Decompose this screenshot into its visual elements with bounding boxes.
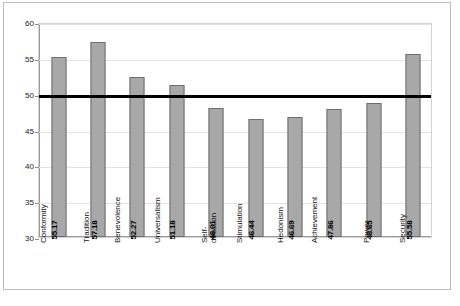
bar-slot: 57.18 xyxy=(78,24,117,237)
figure-caption xyxy=(4,299,434,306)
bar-value-label: 51.18 xyxy=(169,220,177,239)
y-tick-label-50: 50 xyxy=(25,92,34,100)
bar[interactable]: 55.58 xyxy=(406,54,421,237)
x-axis-category-label: Power xyxy=(362,220,371,243)
bar-value-label: 57.18 xyxy=(90,220,98,239)
bar[interactable]: 46.44 xyxy=(248,119,263,237)
x-axis-category-label: Universalism xyxy=(153,197,162,243)
bar-slot: 46.69 xyxy=(275,24,314,237)
y-tick-label-35: 35 xyxy=(25,199,34,207)
bar-value-label: 55.17 xyxy=(51,220,59,239)
bar[interactable]: 47.86 xyxy=(327,109,342,237)
bar-value-label: 52.27 xyxy=(129,220,137,239)
x-axis-category-label: Benevolence xyxy=(113,197,122,243)
x-axis-category-label: Stimulation xyxy=(235,203,244,243)
bar-slot: 52.27 xyxy=(118,24,157,237)
y-tick-label-30: 30 xyxy=(25,235,34,243)
y-tick-label-40: 40 xyxy=(25,163,34,171)
bar-slot: 48.01 xyxy=(197,24,236,237)
x-axis-category-label: Achievement xyxy=(310,197,319,243)
bar-slot: 47.86 xyxy=(315,24,354,237)
bar-chart: 30354045505560 55.1757.1852.2751.1848.01… xyxy=(4,3,452,291)
bar-value-label: 47.86 xyxy=(326,220,334,239)
bar[interactable]: 55.17 xyxy=(51,57,66,237)
reference-line-50 xyxy=(39,95,431,98)
bar[interactable]: 57.18 xyxy=(91,42,106,237)
bar-slot: 55.58 xyxy=(394,24,433,237)
figure-frame: 30354045505560 55.1757.1852.2751.1848.01… xyxy=(3,2,451,290)
x-axis-category-label: Self- direction xyxy=(200,213,218,243)
y-tick-label-55: 55 xyxy=(25,56,34,64)
x-axis-category-label: Security xyxy=(398,214,407,243)
bar[interactable]: 46.69 xyxy=(288,117,303,237)
bar-slot: 48.65 xyxy=(354,24,393,237)
x-axis-labels: ConformityTraditionBenevolenceUniversali… xyxy=(38,241,432,291)
bar[interactable]: 52.27 xyxy=(130,77,145,237)
bar[interactable]: 48.65 xyxy=(366,103,381,237)
y-tick-label-45: 45 xyxy=(25,128,34,136)
x-axis-category-label: Conformity xyxy=(38,204,47,243)
x-axis-category-label: Hedonism xyxy=(276,207,285,243)
y-tick-label-60: 60 xyxy=(25,20,34,28)
bar[interactable]: 51.18 xyxy=(169,85,184,237)
bar-slot: 51.18 xyxy=(157,24,196,237)
bar-value-label: 46.69 xyxy=(287,220,295,239)
x-axis-category-label: Tradition xyxy=(82,212,91,243)
bar-value-label: 46.44 xyxy=(248,220,256,239)
